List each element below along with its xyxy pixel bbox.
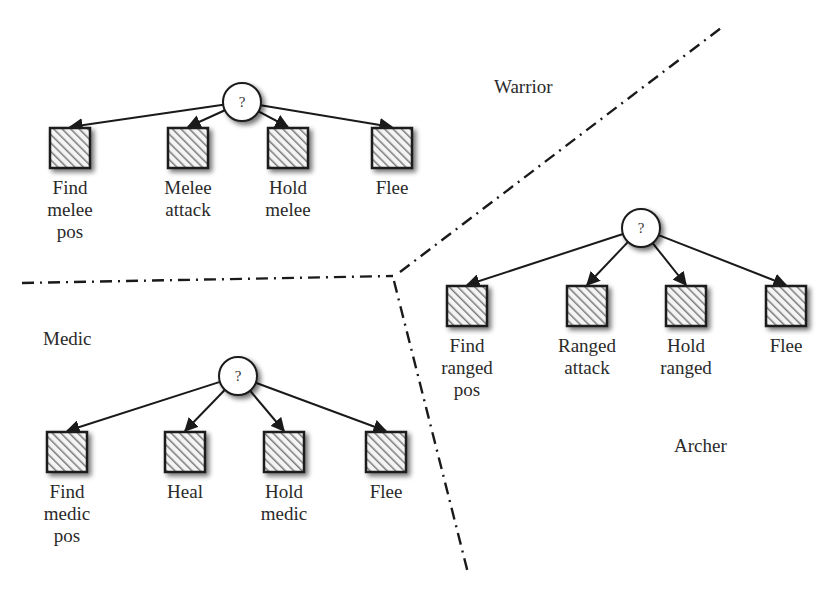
edge-arrow [250,391,284,431]
action-node [165,432,205,472]
region-label-archer: Archer [674,435,727,457]
edge-arrow [67,382,220,431]
action-node [447,286,487,326]
edge-arrow [467,234,623,285]
action-label: Melee attack [164,177,211,221]
action-label: Flee [770,335,803,357]
action-label: Ranged attack [558,335,616,379]
tree-warrior: ? [50,83,412,168]
divider-diagonal [400,28,721,272]
edge-arrow [70,105,223,127]
selector-question-mark: ? [235,368,242,384]
tree-archer: ? [447,209,806,326]
behavior-tree-diagram: ??? [0,0,838,603]
action-node [50,128,90,168]
action-label: Hold medic [261,481,307,525]
action-label: Find medic pos [44,481,90,547]
edge-arrow [188,110,225,127]
region-label-warrior: Warrior [494,76,553,98]
edge-arrow [256,383,386,431]
edge-arrow [587,242,628,285]
region-label-medic: Medic [43,328,92,350]
action-label: Flee [376,177,409,199]
edge-arrow [259,111,288,127]
action-node [268,128,308,168]
action-node [366,432,406,472]
action-node [567,286,607,326]
edge-arrow [659,235,786,285]
tree-medic: ? [47,357,406,472]
edge-arrow [653,243,686,285]
edge-arrow [185,390,225,431]
action-label: Hold ranged [660,335,712,379]
action-node [766,286,806,326]
action-label: Heal [167,481,203,503]
divider-horizontal [22,276,393,283]
action-node [47,432,87,472]
action-label: Find melee pos [47,177,92,243]
action-node [666,286,706,326]
selector-question-mark: ? [239,94,246,110]
action-node [372,128,412,168]
action-label: Flee [370,481,403,503]
action-node [168,128,208,168]
action-node [264,432,304,472]
selector-question-mark: ? [638,220,645,236]
action-label: Find ranged pos [441,335,493,401]
action-label: Hold melee [265,177,310,221]
